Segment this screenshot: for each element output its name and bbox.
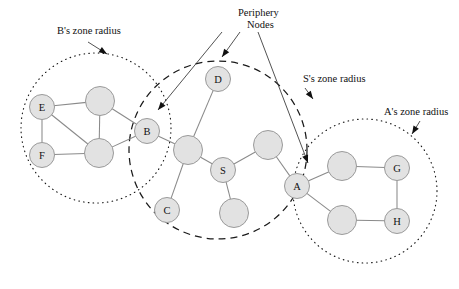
node-B[interactable]: B [135, 119, 160, 144]
periphery-leader-d [219, 32, 240, 59]
edge-A-n6 [308, 171, 330, 181]
node-H[interactable]: H [385, 209, 410, 234]
node-label-B: B [143, 126, 150, 137]
edge-n5-A [276, 156, 291, 177]
edge-E-n2 [51, 114, 89, 144]
edge-n6-G [355, 166, 385, 167]
a-zone-leader [409, 121, 420, 136]
a-zone-radius-label: A's zone radius [384, 106, 448, 117]
periphery-nodes-label-line1: Periphery [238, 7, 280, 18]
diagram-canvas: EFBDSCAGH B's zone radius Periphery Node… [0, 0, 459, 289]
node-circle-n7[interactable] [328, 206, 357, 235]
s-zone-leader [305, 88, 316, 101]
node-G[interactable]: G [385, 156, 410, 181]
node-F[interactable]: F [30, 143, 55, 168]
node-circle-n5[interactable] [254, 131, 283, 160]
node-circle-n3[interactable] [174, 136, 203, 165]
s-zone-leader-arrowhead-icon [306, 91, 316, 101]
node-circle-n1[interactable] [86, 87, 115, 116]
node-label-G: G [393, 163, 401, 174]
s-zone-radius-label: S's zone radius [303, 73, 366, 84]
node-label-H: H [393, 216, 401, 227]
node-circle-n6[interactable] [328, 152, 357, 181]
node-circle-n2[interactable] [85, 139, 114, 168]
edge-n2-B [111, 136, 136, 148]
node-label-A: A [293, 181, 301, 192]
node-label-E: E [39, 102, 45, 113]
node-n2[interactable] [85, 139, 114, 168]
node-label-F: F [39, 150, 45, 161]
edge-n3-S [200, 157, 213, 165]
annotation-labels-layer: B's zone radius Periphery Nodes S's zone… [57, 7, 448, 117]
periphery-nodes-label-line2: Nodes [247, 19, 274, 30]
node-n5[interactable] [254, 131, 283, 160]
periphery-leader-d-arrowhead-icon [219, 49, 229, 59]
edge-n1-B [111, 108, 137, 125]
edge-S-n4 [226, 181, 231, 200]
node-A[interactable]: A [285, 174, 310, 199]
edge-F-n2 [53, 153, 85, 154]
edge-n3-D [193, 90, 213, 138]
node-D[interactable]: D [206, 67, 231, 92]
edge-S-n5 [233, 152, 256, 165]
node-n1[interactable] [86, 87, 115, 116]
node-label-S: S [220, 165, 226, 176]
node-C[interactable]: C [155, 198, 180, 223]
node-label-C: C [163, 205, 170, 216]
edge-A-n7 [306, 193, 331, 212]
node-n3[interactable] [174, 136, 203, 165]
b-zone-radius-label: B's zone radius [57, 25, 121, 36]
node-S[interactable]: S [211, 158, 236, 183]
network-zone-diagram: EFBDSCAGH B's zone radius Periphery Node… [0, 0, 459, 289]
node-n4[interactable] [220, 199, 249, 228]
a-zone-leader-arrowhead-icon [409, 126, 418, 136]
node-n7[interactable] [328, 206, 357, 235]
edge-B-n3 [157, 136, 175, 144]
a-zone-boundary [293, 119, 437, 263]
node-E[interactable]: E [30, 95, 55, 120]
edge-n7-H [356, 220, 386, 221]
nodes-layer: EFBDSCAGH [30, 67, 410, 235]
b-zone-leader-arrowhead-icon [99, 47, 109, 57]
edge-n3-C [171, 163, 184, 199]
node-circle-n4[interactable] [220, 199, 249, 228]
node-n6[interactable] [328, 152, 357, 181]
node-label-D: D [214, 74, 222, 85]
edge-E-n1 [53, 102, 86, 105]
b-zone-leader [88, 42, 109, 57]
